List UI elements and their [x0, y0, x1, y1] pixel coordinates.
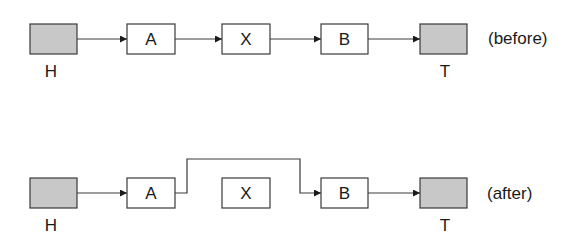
head-caption: H	[45, 62, 57, 81]
tail-caption: T	[440, 62, 450, 81]
node-X-label: X	[240, 30, 251, 49]
node-H-sentinel	[30, 24, 77, 54]
node-A-label: A	[145, 184, 157, 203]
after-row: A X B H T (after)	[30, 159, 532, 235]
node-T-sentinel	[420, 24, 467, 54]
before-row: A X B H T (before)	[30, 24, 548, 81]
head-caption: H	[45, 216, 57, 235]
after-caption: (after)	[487, 184, 532, 203]
node-X-label: X	[240, 184, 251, 203]
linked-list-diagram: A X B H T (before) A X B H T (after)	[0, 0, 574, 252]
node-T-sentinel	[420, 178, 467, 208]
node-B-label: B	[339, 184, 350, 203]
node-H-sentinel	[30, 178, 77, 208]
before-caption: (before)	[488, 29, 548, 48]
tail-caption: T	[440, 216, 450, 235]
node-A-label: A	[145, 30, 157, 49]
node-B-label: B	[339, 30, 350, 49]
